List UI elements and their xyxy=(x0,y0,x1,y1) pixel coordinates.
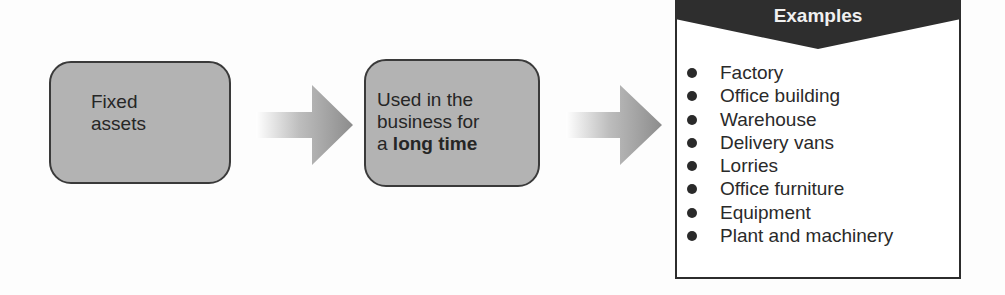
bullet-icon xyxy=(687,231,697,241)
list-item: Warehouse xyxy=(687,108,893,131)
examples-header: Examples xyxy=(675,0,961,52)
used-line-1: Used in the xyxy=(377,89,538,111)
examples-list: Factory Office building Warehouse Delive… xyxy=(687,61,893,247)
list-item-label: Office furniture xyxy=(720,178,844,199)
list-item: Plant and machinery xyxy=(687,224,893,247)
bullet-icon xyxy=(687,208,697,218)
list-item-label: Lorries xyxy=(720,155,778,176)
list-item: Office furniture xyxy=(687,177,893,200)
bullet-icon xyxy=(687,115,697,125)
list-item: Lorries xyxy=(687,154,893,177)
bullet-icon xyxy=(687,91,697,101)
examples-panel: Examples Factory Office building Warehou… xyxy=(675,0,961,279)
bullet-icon xyxy=(687,161,697,171)
list-item-label: Warehouse xyxy=(720,109,816,130)
examples-title: Examples xyxy=(675,5,961,27)
used-line-3: a long time xyxy=(377,133,538,155)
list-item-label: Office building xyxy=(720,85,840,106)
used-line-3-prefix: a xyxy=(377,133,393,154)
right-arrow-icon xyxy=(250,80,360,170)
long-time-emphasis: long time xyxy=(393,133,477,154)
list-item: Factory xyxy=(687,61,893,84)
fixed-assets-box: Fixed assets xyxy=(49,61,231,184)
list-item: Equipment xyxy=(687,201,893,224)
fixed-assets-line-1: Fixed xyxy=(91,91,229,113)
bullet-icon xyxy=(687,138,697,148)
list-item: Office building xyxy=(687,84,893,107)
list-item-label: Delivery vans xyxy=(720,132,834,153)
list-item-label: Factory xyxy=(720,62,783,83)
right-arrow-icon xyxy=(560,80,670,170)
bullet-icon xyxy=(687,68,697,78)
diagram-canvas: Fixed assets Used in the business for a … xyxy=(0,0,1005,295)
list-item-label: Equipment xyxy=(720,202,811,223)
list-item: Delivery vans xyxy=(687,131,893,154)
list-item-label: Plant and machinery xyxy=(720,225,893,246)
bullet-icon xyxy=(687,184,697,194)
fixed-assets-line-2: assets xyxy=(91,113,229,135)
used-line-2: business for xyxy=(377,111,538,133)
used-in-business-box: Used in the business for a long time xyxy=(364,59,540,187)
